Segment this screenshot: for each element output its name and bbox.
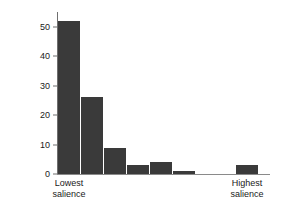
y-axis-tick-label: 20	[40, 111, 53, 120]
bar-10	[236, 165, 258, 174]
y-axis-tick-40: 40	[40, 52, 57, 61]
bar-4	[127, 165, 149, 174]
bar-6	[173, 171, 195, 174]
y-axis-tick-mark	[53, 115, 57, 116]
y-axis-tick-10: 10	[40, 140, 57, 149]
y-axis-tick-30: 30	[40, 81, 57, 90]
y-axis-tick-mark	[53, 26, 57, 27]
bar-1	[58, 21, 80, 174]
y-axis-tick-label: 10	[40, 140, 53, 149]
y-axis-tick-20: 20	[40, 111, 57, 120]
x-axis-label-lowest: Lowest salience	[39, 178, 99, 200]
y-axis-tick-mark	[53, 56, 57, 57]
y-axis-tick-mark	[53, 174, 57, 175]
x-axis-line	[57, 174, 270, 175]
bar-series	[58, 12, 270, 174]
x-axis-label-highest-line2: salience	[217, 189, 277, 200]
bar-3	[104, 148, 126, 175]
y-axis-tick-label: 30	[40, 81, 53, 90]
y-axis-tick-50: 50	[40, 22, 57, 31]
x-axis-label-highest: Highest salience	[217, 178, 277, 200]
x-axis-label-highest-line1: Highest	[217, 178, 277, 189]
bar-5	[150, 162, 172, 174]
bar-2	[81, 97, 103, 174]
y-axis-tick-mark	[53, 144, 57, 145]
x-axis-label-lowest-line1: Lowest	[39, 178, 99, 189]
x-axis-label-lowest-line2: salience	[39, 189, 99, 200]
bar-chart: 01020304050 Lowest salience Highest sali…	[0, 0, 282, 218]
y-axis-tick-label: 50	[40, 22, 53, 31]
y-axis-tick-label: 40	[40, 52, 53, 61]
y-axis-tick-mark	[53, 85, 57, 86]
